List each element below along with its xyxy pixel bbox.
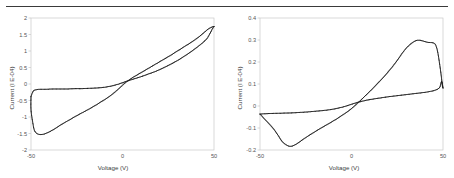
data-point-marker <box>152 65 153 66</box>
data-point-marker <box>348 105 349 106</box>
data-point-marker <box>123 82 124 83</box>
data-point-marker <box>118 84 119 85</box>
data-point-marker <box>307 136 308 137</box>
data-point-marker <box>56 88 57 89</box>
data-point-marker <box>79 88 80 89</box>
data-point-marker <box>335 108 336 109</box>
data-point-marker <box>115 91 116 92</box>
data-point-marker <box>439 63 440 64</box>
data-point-marker <box>212 26 213 27</box>
data-point-marker <box>440 67 441 68</box>
data-point-marker <box>264 113 265 114</box>
data-point-marker <box>267 113 268 114</box>
data-point-marker <box>330 109 331 110</box>
data-point-marker <box>419 93 420 94</box>
data-point-marker <box>406 94 407 95</box>
data-point-marker <box>163 59 164 60</box>
data-point-marker <box>439 61 440 62</box>
data-point-marker <box>33 90 34 91</box>
data-point-marker <box>133 79 134 80</box>
data-point-marker <box>263 118 264 119</box>
axes-right <box>258 18 444 150</box>
data-point-marker <box>51 88 52 89</box>
data-point-marker <box>101 101 102 102</box>
data-point-marker <box>358 101 359 102</box>
data-point-marker <box>394 95 395 96</box>
data-point-marker <box>206 30 207 31</box>
data-point-marker <box>264 119 265 120</box>
data-point-marker <box>86 88 87 89</box>
data-point-marker <box>181 57 182 58</box>
data-point-marker <box>420 92 421 93</box>
data-point-marker <box>314 132 315 133</box>
data-point-marker <box>276 133 277 134</box>
data-point-marker <box>433 42 434 43</box>
data-point-marker <box>321 128 322 129</box>
data-point-marker <box>198 46 199 47</box>
data-point-marker <box>33 126 34 127</box>
data-point-marker <box>136 75 137 76</box>
iv-curve-chart-right: -0.2-0.100.10.20.30.4-50050 Voltage (V) … <box>227 10 454 178</box>
data-point-marker <box>111 94 112 95</box>
data-point-marker <box>347 105 348 106</box>
data-point-marker <box>361 101 362 102</box>
data-point-marker <box>138 74 139 75</box>
data-point-marker <box>424 92 425 93</box>
data-point-marker <box>265 120 266 121</box>
data-point-marker <box>276 113 277 114</box>
data-point-marker <box>186 55 187 56</box>
data-point-marker <box>438 57 439 58</box>
data-point-marker <box>270 124 271 125</box>
data-point-marker <box>180 58 181 59</box>
data-point-marker <box>30 101 31 102</box>
data-point-marker <box>168 65 169 66</box>
data-point-marker <box>143 75 144 76</box>
data-point-marker <box>39 134 40 135</box>
data-point-marker <box>399 57 400 58</box>
data-point-marker <box>124 81 125 82</box>
data-point-marker <box>331 109 332 110</box>
data-point-marker <box>112 93 113 94</box>
data-point-marker <box>171 54 172 55</box>
data-point-marker <box>275 131 276 132</box>
data-point-marker <box>165 67 166 68</box>
x-tick-label: -50 <box>256 153 264 159</box>
data-point-marker <box>57 88 58 89</box>
data-series-line <box>31 27 214 97</box>
data-point-marker <box>105 87 106 88</box>
x-tick-label: -50 <box>27 153 35 159</box>
data-point-marker <box>352 103 353 104</box>
data-point-marker <box>142 76 143 77</box>
data-point-marker <box>150 73 151 74</box>
data-point-marker <box>97 104 98 105</box>
data-point-marker <box>352 107 353 108</box>
data-point-marker <box>344 106 345 107</box>
data-point-marker <box>370 90 371 91</box>
data-point-marker <box>403 51 404 52</box>
data-point-marker <box>343 106 344 107</box>
data-point-marker <box>364 96 365 97</box>
data-point-marker <box>80 113 81 114</box>
tick-labels-left: -2-1.5-1-0.500.511.52-50050 <box>17 15 217 159</box>
data-point-marker <box>183 56 184 57</box>
data-point-marker <box>205 31 206 32</box>
data-point-marker <box>293 145 294 146</box>
data-point-marker <box>387 72 388 73</box>
data-point-marker <box>111 85 112 86</box>
data-point-marker <box>260 114 261 115</box>
data-point-marker <box>191 41 192 42</box>
data-point-marker <box>92 88 93 89</box>
data-point-marker <box>429 91 430 92</box>
data-point-marker <box>112 85 113 86</box>
data-point-marker <box>307 111 308 112</box>
data-point-marker <box>132 77 133 78</box>
y-tick-label: -1.5 <box>17 131 27 137</box>
data-point-marker <box>314 111 315 112</box>
data-point-marker <box>156 63 157 64</box>
data-point-marker <box>392 96 393 97</box>
data-point-marker <box>146 69 147 70</box>
data-point-marker <box>61 124 62 125</box>
data-point-marker <box>304 112 305 113</box>
data-point-marker <box>205 40 206 41</box>
data-point-marker <box>105 99 106 100</box>
